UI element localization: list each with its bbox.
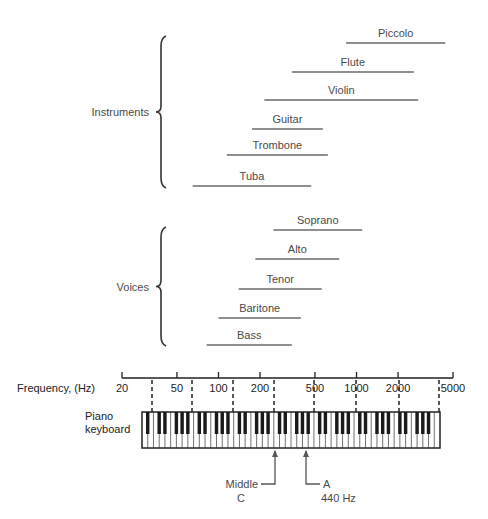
brace-voices: Voices	[117, 227, 166, 346]
black-key	[278, 412, 281, 434]
annotation-label: 440 Hz	[321, 492, 356, 504]
arrow-up-icon	[272, 450, 278, 457]
range-label: Alto	[288, 243, 307, 255]
black-key	[198, 412, 201, 434]
range-label: Tenor	[266, 273, 294, 285]
pitch-annotations: MiddleCA440 Hz	[226, 450, 356, 504]
range-label: Violin	[328, 84, 355, 96]
range-label: Guitar	[272, 113, 302, 125]
black-key	[238, 412, 241, 434]
annotation-label: A	[323, 478, 331, 490]
black-key	[163, 412, 166, 434]
range-tenor: Tenor	[239, 273, 322, 289]
annotation-middle-c: MiddleC	[226, 450, 278, 504]
arrow-up-icon	[303, 450, 309, 457]
black-key	[301, 412, 304, 434]
black-key	[226, 412, 229, 434]
black-key	[398, 412, 401, 434]
black-key	[421, 412, 424, 434]
range-label: Bass	[237, 329, 262, 341]
black-key	[404, 412, 407, 434]
black-key	[318, 412, 321, 434]
black-key	[203, 412, 206, 434]
range-bass: Bass	[207, 329, 292, 345]
black-key	[146, 412, 149, 434]
range-trombone: Trombone	[227, 139, 328, 155]
black-key	[243, 412, 246, 434]
brace-instruments: Instruments	[92, 36, 166, 188]
range-label: Trombone	[252, 139, 302, 151]
brace-icon	[156, 36, 166, 188]
keyboard-label: keyboard	[85, 423, 130, 435]
black-key	[175, 412, 178, 434]
range-flute: Flute	[292, 56, 414, 72]
black-key	[261, 412, 264, 434]
tick-label: 2000	[386, 382, 410, 394]
range-piccolo: Piccolo	[346, 27, 445, 43]
black-key	[266, 412, 269, 434]
annotation-label: C	[237, 492, 245, 504]
tick-label: 200	[251, 382, 269, 394]
tick-label: 100	[209, 382, 227, 394]
black-key	[180, 412, 183, 434]
black-key	[347, 412, 350, 434]
range-label: Flute	[341, 56, 365, 68]
brace-icon	[156, 227, 166, 346]
tick-label: 500	[306, 382, 324, 394]
black-key	[157, 412, 160, 434]
black-key	[186, 412, 189, 434]
range-label: Piccolo	[378, 27, 413, 39]
annotation-label: Middle	[226, 478, 258, 490]
black-key	[306, 412, 309, 434]
group-label: Voices	[117, 281, 150, 293]
black-key	[427, 412, 430, 434]
axis-title: Frequency, (Hz)	[17, 382, 95, 394]
range-soprano: Soprano	[273, 214, 362, 230]
black-key	[415, 412, 418, 434]
annotation-a440: A440 Hz	[303, 450, 356, 504]
range-label: Baritone	[239, 302, 280, 314]
range-tuba: Tuba	[193, 170, 312, 186]
range-bars: PiccoloFluteViolinGuitarTromboneTubaSopr…	[193, 27, 446, 345]
black-key	[255, 412, 258, 434]
tick-label: 20	[116, 382, 128, 394]
tick-label: 5000	[441, 382, 465, 394]
black-key	[341, 412, 344, 434]
black-key	[284, 412, 287, 434]
black-key	[381, 412, 384, 434]
black-key	[358, 412, 361, 434]
black-key	[387, 412, 390, 434]
range-guitar: Guitar	[252, 113, 323, 129]
frequency-axis: Frequency, (Hz)2050100200500100020005000	[17, 372, 465, 394]
range-violin: Violin	[264, 84, 418, 100]
frequency-range-diagram: InstrumentsVoices PiccoloFluteViolinGuit…	[0, 0, 488, 519]
black-key	[335, 412, 338, 434]
range-label: Soprano	[297, 214, 339, 226]
black-key	[364, 412, 367, 434]
range-baritone: Baritone	[218, 302, 300, 318]
tick-label: 50	[171, 382, 183, 394]
range-alto: Alto	[255, 243, 339, 259]
black-key	[215, 412, 218, 434]
black-key	[221, 412, 224, 434]
black-key	[324, 412, 327, 434]
black-key	[295, 412, 298, 434]
keyboard-label: Piano	[85, 410, 113, 422]
group-braces: InstrumentsVoices	[92, 36, 166, 346]
range-label: Tuba	[240, 170, 266, 182]
black-key	[375, 412, 378, 434]
group-label: Instruments	[92, 106, 150, 118]
